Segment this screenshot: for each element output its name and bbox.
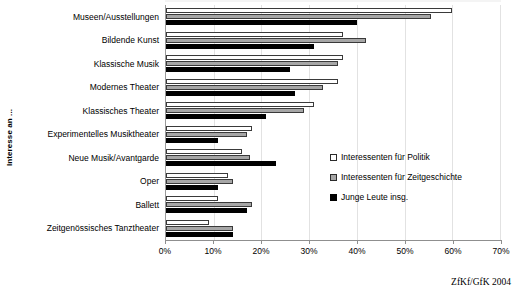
bar bbox=[166, 226, 233, 231]
x-tick-label: 50% bbox=[396, 246, 413, 256]
y-axis-title: Interesse an ... bbox=[2, 72, 18, 202]
legend-item[interactable]: Interessenten für Politik bbox=[330, 152, 462, 162]
chart-legend: Interessenten für PolitikInteressenten f… bbox=[330, 152, 462, 202]
source-credit: ZfKf/GfK 2004 bbox=[451, 277, 511, 287]
bar bbox=[166, 173, 228, 178]
bar bbox=[166, 61, 338, 66]
x-axis-ticks: 0%10%20%30%40%50%60%70% bbox=[165, 240, 501, 260]
x-tick-label: 60% bbox=[444, 246, 461, 256]
bar-group bbox=[166, 76, 500, 100]
bar bbox=[166, 67, 290, 72]
x-tick-mark bbox=[165, 240, 166, 244]
bar bbox=[166, 8, 452, 13]
x-tick-mark bbox=[213, 240, 214, 244]
x-tick-mark bbox=[309, 240, 310, 244]
legend-label: Junge Leute insg. bbox=[341, 192, 408, 202]
bar-groups bbox=[166, 5, 500, 240]
bar bbox=[166, 14, 431, 19]
bar bbox=[166, 108, 304, 113]
category-label: Zeitgenössisches Tanztheater bbox=[18, 217, 163, 241]
x-tick-label: 30% bbox=[300, 246, 317, 256]
bar-group bbox=[166, 217, 500, 241]
bar bbox=[166, 208, 247, 213]
x-tick-label: 40% bbox=[348, 246, 365, 256]
bar bbox=[166, 91, 295, 96]
legend-item[interactable]: Junge Leute insg. bbox=[330, 192, 462, 202]
x-tick-mark bbox=[501, 240, 502, 244]
bar bbox=[166, 44, 314, 49]
category-label: Oper bbox=[18, 170, 163, 194]
bar-group bbox=[166, 123, 500, 147]
category-label: Bildende Kunst bbox=[18, 29, 163, 53]
x-tick-label: 70% bbox=[492, 246, 509, 256]
category-label: Museen/Ausstellungen bbox=[18, 5, 163, 29]
plot-area bbox=[165, 5, 500, 240]
category-axis-labels: Museen/AusstellungenBildende KunstKlassi… bbox=[18, 5, 163, 240]
bar-chart: Interesse an ... Museen/AusstellungenBil… bbox=[0, 0, 519, 293]
x-tick-label: 20% bbox=[252, 246, 269, 256]
legend-label: Interessenten für Zeitgeschichte bbox=[341, 172, 462, 182]
bar bbox=[166, 155, 250, 160]
legend-swatch-icon bbox=[330, 154, 337, 161]
x-tick-mark bbox=[405, 240, 406, 244]
bar bbox=[166, 79, 338, 84]
bar bbox=[166, 55, 343, 60]
bar bbox=[166, 202, 252, 207]
bar-group bbox=[166, 52, 500, 76]
bar bbox=[166, 161, 276, 166]
legend-label: Interessenten für Politik bbox=[341, 152, 430, 162]
bar bbox=[166, 114, 266, 119]
bar bbox=[166, 185, 218, 190]
bar bbox=[166, 102, 314, 107]
bar bbox=[166, 32, 343, 37]
bar bbox=[166, 179, 233, 184]
bar-group bbox=[166, 29, 500, 53]
bar bbox=[166, 138, 218, 143]
y-axis-title-text: Interesse an ... bbox=[6, 108, 15, 165]
category-label: Experimentelles Musiktheater bbox=[18, 123, 163, 147]
bar bbox=[166, 196, 218, 201]
legend-swatch-icon bbox=[330, 194, 337, 201]
bar bbox=[166, 126, 252, 131]
legend-swatch-icon bbox=[330, 174, 337, 181]
category-label: Klassische Musik bbox=[18, 52, 163, 76]
x-tick-label: 0% bbox=[159, 246, 171, 256]
x-tick-mark bbox=[261, 240, 262, 244]
category-label: Klassisches Theater bbox=[18, 99, 163, 123]
bar bbox=[166, 149, 242, 154]
x-tick-mark bbox=[357, 240, 358, 244]
gridline bbox=[500, 5, 501, 240]
bar bbox=[166, 38, 366, 43]
chart-top-edge-artifact bbox=[165, 0, 501, 2]
x-tick-mark bbox=[453, 240, 454, 244]
bar bbox=[166, 85, 323, 90]
bar bbox=[166, 220, 209, 225]
bar-group bbox=[166, 5, 500, 29]
x-tick-label: 10% bbox=[204, 246, 221, 256]
legend-item[interactable]: Interessenten für Zeitgeschichte bbox=[330, 172, 462, 182]
bar bbox=[166, 132, 247, 137]
bar bbox=[166, 232, 233, 237]
bar-group bbox=[166, 99, 500, 123]
category-label: Neue Musik/Avantgarde bbox=[18, 146, 163, 170]
bar bbox=[166, 20, 357, 25]
category-label: Modernes Theater bbox=[18, 76, 163, 100]
category-label: Ballett bbox=[18, 193, 163, 217]
